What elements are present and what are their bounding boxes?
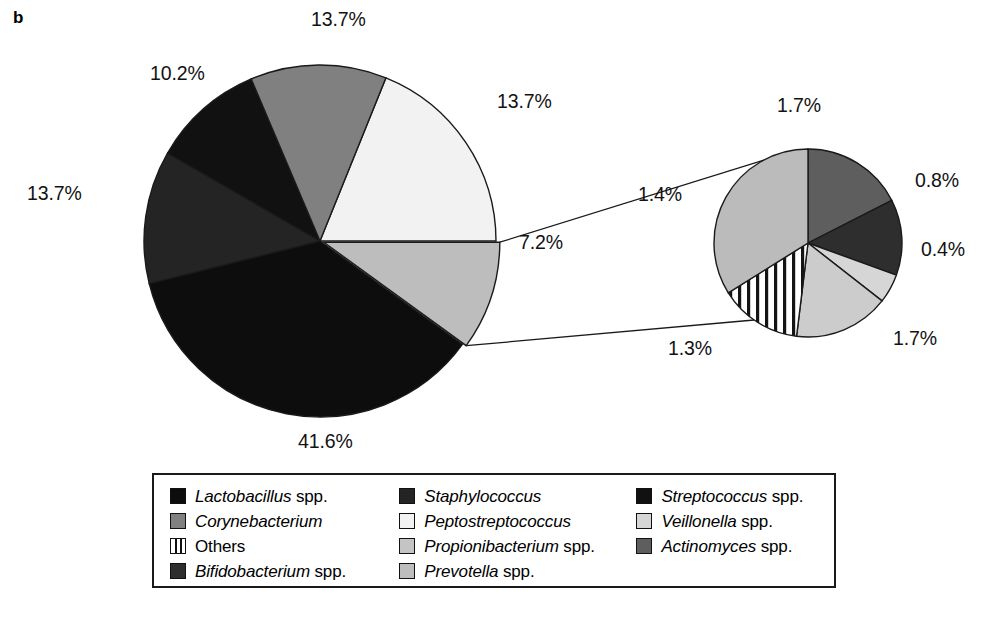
percent-label: 1.3% xyxy=(668,337,712,360)
legend-label: Streptococcus spp. xyxy=(661,487,803,506)
percent-label: 13.7% xyxy=(27,182,82,205)
legend-swatch-prevotella xyxy=(399,563,415,579)
legend-swatch-peptostreptococcus xyxy=(399,513,415,529)
legend-item[interactable]: Lactobacillus spp. xyxy=(170,484,399,508)
legend-label: Veillonella spp. xyxy=(661,512,772,531)
legend-item[interactable]: Propionibacterium spp. xyxy=(399,534,636,558)
percent-label: 1.4% xyxy=(638,183,682,206)
legend-label: Propionibacterium spp. xyxy=(424,537,595,556)
legend-label: Bifidobacterium spp. xyxy=(195,562,346,581)
percent-label: 0.8% xyxy=(915,169,959,192)
legend-column: Streptococcus spp.Veillonella spp.Actino… xyxy=(636,484,834,586)
main-pie xyxy=(144,65,500,417)
percent-label: 1.7% xyxy=(777,94,821,117)
legend-swatch-others xyxy=(170,538,186,554)
detail-pie xyxy=(714,149,902,337)
legend-item[interactable]: Prevotella spp. xyxy=(399,559,636,583)
legend-label: Staphylococcus xyxy=(424,487,541,506)
legend-swatch-actinomyces xyxy=(636,538,652,554)
percent-label: 7.2% xyxy=(519,231,563,254)
legend-column: StaphylococcusPeptostreptococcusPropioni… xyxy=(399,484,636,586)
legend-column: Lactobacillus spp.CorynebacteriumOthersB… xyxy=(170,484,399,586)
percent-label: 1.7% xyxy=(893,327,937,350)
legend-swatch-lactobacillus xyxy=(170,488,186,504)
legend-box: Lactobacillus spp.CorynebacteriumOthersB… xyxy=(152,473,836,588)
legend-swatch-staphylococcus xyxy=(399,488,415,504)
legend-item[interactable]: Bifidobacterium spp. xyxy=(170,559,399,583)
percent-label: 41.6% xyxy=(298,430,353,453)
legend-label: Corynebacterium xyxy=(195,512,322,531)
legend-swatch-veillonella xyxy=(636,513,652,529)
legend-columns: Lactobacillus spp.CorynebacteriumOthersB… xyxy=(154,475,834,586)
legend-swatch-bifidobacterium xyxy=(170,563,186,579)
percent-label: 13.7% xyxy=(311,8,366,31)
legend-item[interactable]: Streptococcus spp. xyxy=(636,484,834,508)
legend-item[interactable]: Veillonella spp. xyxy=(636,509,834,533)
legend-label: Lactobacillus spp. xyxy=(195,487,327,506)
legend-item[interactable]: Corynebacterium xyxy=(170,509,399,533)
legend-label: Others xyxy=(195,537,245,556)
figure-panel-b: b 13.7%10.2%13.7%41.6%13.7%7.2% 1.7%0.8%… xyxy=(0,0,988,622)
legend-label: Prevotella spp. xyxy=(424,562,534,581)
legend-label: Actinomyces spp. xyxy=(661,537,792,556)
legend-item[interactable]: Peptostreptococcus xyxy=(399,509,636,533)
legend-item[interactable]: Others xyxy=(170,534,399,558)
legend-swatch-streptococcus xyxy=(636,488,652,504)
percent-label: 13.7% xyxy=(497,90,552,113)
legend-label: Peptostreptococcus xyxy=(424,512,571,531)
percent-label: 10.2% xyxy=(150,62,205,85)
legend-item[interactable]: Staphylococcus xyxy=(399,484,636,508)
legend-item[interactable]: Actinomyces spp. xyxy=(636,534,834,558)
legend-swatch-propionibacterium xyxy=(399,538,415,554)
legend-swatch-corynebacterium xyxy=(170,513,186,529)
percent-label: 0.4% xyxy=(921,238,965,261)
